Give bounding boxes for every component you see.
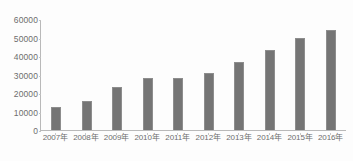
y-tick-label: 0 bbox=[33, 127, 38, 136]
x-tick-mark bbox=[330, 133, 331, 135]
bar[interactable] bbox=[295, 38, 305, 130]
bar[interactable] bbox=[143, 78, 153, 130]
bar[interactable] bbox=[265, 50, 275, 130]
bar-slot bbox=[194, 20, 225, 130]
x-tick-mark bbox=[208, 133, 209, 135]
y-tick-label: 40000 bbox=[14, 53, 38, 62]
x-tick-mark bbox=[300, 133, 301, 135]
x-tick-mark bbox=[55, 133, 56, 135]
x-tick-mark bbox=[269, 133, 270, 135]
y-tick-label: 10000 bbox=[14, 108, 38, 117]
bar[interactable] bbox=[326, 30, 336, 130]
chart-screenshot: 0100002000030000400005000060000 2007年200… bbox=[0, 0, 353, 161]
plot-area: 0100002000030000400005000060000 bbox=[40, 20, 346, 131]
x-label-slot: 2014年 bbox=[254, 133, 285, 149]
x-label-slot: 2011年 bbox=[162, 133, 193, 149]
x-label-slot: 2015年 bbox=[285, 133, 316, 149]
y-tick-label: 30000 bbox=[14, 71, 38, 80]
y-tick-label: 20000 bbox=[14, 90, 38, 99]
x-label-slot: 2009年 bbox=[101, 133, 132, 149]
bar-slot bbox=[41, 20, 72, 130]
bar-slot bbox=[102, 20, 133, 130]
x-label-slot: 2008年 bbox=[71, 133, 102, 149]
x-label-slot: 2016年 bbox=[315, 133, 346, 149]
bar-chart: 0100002000030000400005000060000 2007年200… bbox=[0, 0, 353, 161]
bar-slot bbox=[255, 20, 286, 130]
x-tick-mark bbox=[116, 133, 117, 135]
bar-slot bbox=[133, 20, 164, 130]
bar-slot bbox=[72, 20, 103, 130]
bar-slot bbox=[163, 20, 194, 130]
x-tick-mark bbox=[238, 133, 239, 135]
bar[interactable] bbox=[173, 78, 183, 130]
bar-slot bbox=[285, 20, 316, 130]
x-axis-labels: 2007年2008年2009年2010年2011年2012年2013年2014年… bbox=[40, 133, 346, 149]
y-tick-label: 60000 bbox=[14, 16, 38, 25]
x-label-slot: 2010年 bbox=[132, 133, 163, 149]
x-label-slot: 2012年 bbox=[193, 133, 224, 149]
x-tick-mark bbox=[147, 133, 148, 135]
x-tick-mark bbox=[85, 133, 86, 135]
bar[interactable] bbox=[112, 87, 122, 130]
bar-slot bbox=[316, 20, 347, 130]
x-tick-mark bbox=[177, 133, 178, 135]
bar[interactable] bbox=[234, 62, 244, 130]
bar[interactable] bbox=[82, 101, 92, 130]
x-label-slot: 2013年 bbox=[224, 133, 255, 149]
x-label-slot: 2007年 bbox=[40, 133, 71, 149]
bar-series bbox=[41, 20, 346, 130]
bar-slot bbox=[224, 20, 255, 130]
bar[interactable] bbox=[204, 73, 214, 130]
y-tick-label: 50000 bbox=[14, 34, 38, 43]
bar[interactable] bbox=[51, 107, 61, 130]
y-tick-mark bbox=[39, 131, 41, 132]
